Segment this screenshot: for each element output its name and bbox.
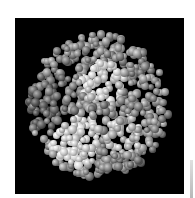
atom-sphere: [115, 144, 122, 151]
atom-sphere: [161, 88, 169, 96]
atom-sphere: [123, 151, 131, 159]
atom-sphere: [31, 98, 40, 107]
atom-sphere: [102, 37, 110, 45]
molecule-image-frame: [15, 18, 184, 194]
atom-sphere: [81, 151, 87, 157]
atom-sphere: [116, 52, 124, 60]
atom-sphere: [125, 143, 132, 150]
atom-sphere: [134, 135, 140, 141]
atom-sphere: [133, 49, 141, 57]
atom-sphere: [33, 110, 39, 116]
atom-sphere: [87, 93, 95, 101]
atom-sphere: [74, 50, 81, 57]
atom-sphere: [115, 44, 123, 52]
edge-bar: [190, 160, 193, 198]
atom-sphere: [52, 159, 59, 166]
atom-sphere: [98, 94, 105, 101]
atom-sphere: [50, 61, 58, 69]
atom-sphere: [140, 75, 148, 83]
atom-sphere: [82, 46, 90, 54]
atom-sphere: [94, 125, 102, 133]
atom-sphere: [82, 144, 90, 152]
atom-sphere: [68, 125, 77, 134]
atom-sphere: [43, 68, 52, 77]
atom-sphere: [155, 81, 162, 88]
atom-sphere: [32, 130, 38, 136]
atom-sphere: [127, 161, 134, 168]
atom-sphere: [77, 128, 85, 136]
atom-sphere: [87, 79, 95, 87]
atom-sphere: [146, 140, 153, 147]
atom-sphere: [49, 150, 57, 158]
atom-sphere: [128, 123, 136, 131]
atom-sphere: [104, 50, 112, 58]
atom-sphere: [89, 32, 95, 38]
atom-sphere: [117, 96, 126, 105]
atom-sphere: [76, 79, 83, 86]
atom-sphere: [117, 36, 126, 45]
atom-sphere: [116, 117, 124, 125]
atom-sphere: [65, 76, 71, 82]
atom-sphere: [53, 116, 62, 125]
atom-sphere: [156, 69, 163, 76]
atom-sphere: [72, 43, 79, 50]
atom-sphere: [128, 80, 134, 86]
atom-sphere: [114, 162, 123, 171]
atom-sphere: [141, 62, 150, 71]
atom-sphere: [107, 61, 115, 69]
atom-sphere: [103, 88, 109, 94]
atom-sphere: [45, 87, 53, 95]
atom-sphere: [62, 56, 70, 64]
atom-sphere: [103, 156, 111, 164]
atom-sphere: [159, 99, 167, 107]
atom-sphere: [153, 88, 160, 95]
atom-sphere: [108, 130, 117, 139]
atom-sphere: [62, 106, 68, 112]
atom-sphere: [76, 156, 82, 162]
atom-sphere: [112, 153, 118, 159]
atom-sphere: [75, 65, 83, 73]
atom-sphere: [53, 92, 61, 100]
atom-sphere: [150, 95, 157, 102]
atom-sphere: [70, 106, 78, 114]
atom-sphere: [58, 81, 65, 88]
atom-sphere: [134, 102, 143, 111]
atom-sphere: [71, 92, 77, 98]
atom-sphere: [40, 135, 48, 143]
atom-sphere: [128, 95, 136, 103]
atom-sphere: [151, 125, 159, 133]
atom-sphere: [127, 62, 134, 69]
